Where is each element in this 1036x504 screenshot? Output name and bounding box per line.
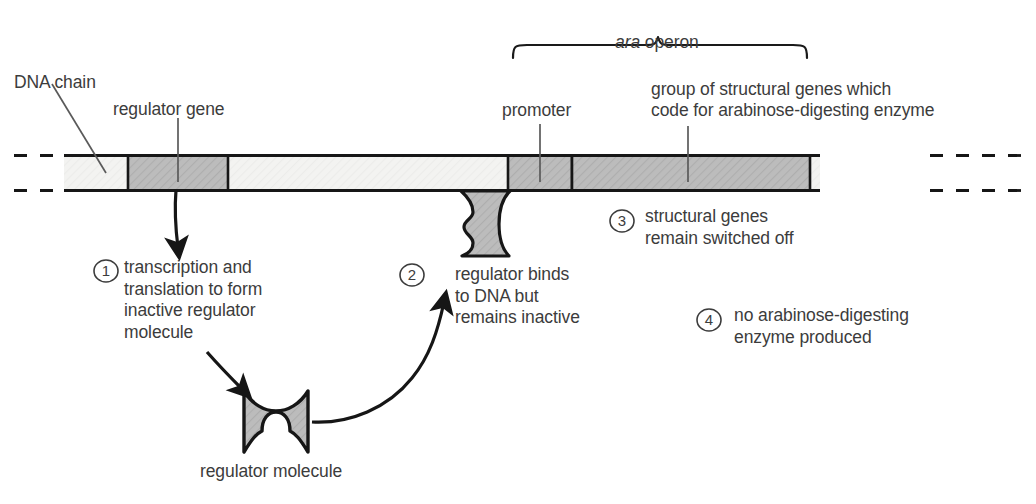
step-2-text-line2: to DNA but [455,286,539,308]
step-1-text-line4: molecule [124,322,193,344]
bound-regulator-shape [461,191,510,256]
structural-genes-block [572,156,810,191]
step-1-text-line2: translation to form [124,279,262,301]
step-3-text-line2: remain switched off [645,228,794,250]
step-4-number-text: 4 [705,311,713,328]
ara-operon-label: ara operon [596,11,699,74]
step-1-number: 1 [93,258,119,284]
promoter-label: promoter [502,100,571,121]
regulator-gene-label: regulator gene [113,99,224,120]
structural-genes-label-line1: group of structural genes which [651,79,891,100]
step-2-number: 2 [399,262,425,288]
step-2-text-line1: regulator binds [455,264,569,286]
structural-genes-label-line2: code for arabinose-digesting enzyme [651,100,934,121]
transcription-arrow [175,190,178,248]
diagram-canvas: DNA chain regulator gene promoter ara op… [0,0,1036,504]
dna-chain-bar [14,156,1022,191]
ara-operon-illustration [0,0,1036,504]
step-2-number-text: 2 [408,266,416,283]
step-3-text-line1: structural genes [645,206,768,228]
translation-arrow [207,352,243,390]
dna-chain-label: DNA chain [14,72,96,93]
step-4-text-line1: no arabinose-digesting [734,305,909,327]
step-2-text-line3: remains inactive [455,307,580,329]
regulator-molecule-shape [244,391,308,452]
step-4-number: 4 [696,307,722,333]
step-3-number: 3 [609,208,635,234]
step-3-number-text: 3 [618,212,626,229]
step-1-text-line1: transcription and [124,257,252,279]
binding-arrow [312,302,444,422]
regulator-molecule-label: regulator molecule [200,461,342,482]
ara-operon-italic-part: ara [615,32,640,52]
ara-operon-rest-part: operon [640,32,699,52]
step-1-number-text: 1 [102,262,110,279]
step-1-text-line3: inactive regulator [124,300,255,322]
step-4-text-line2: enzyme produced [734,327,872,349]
